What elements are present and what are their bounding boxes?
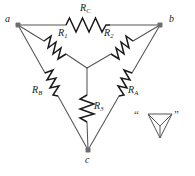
resistor-label-RB-sub: B: [38, 89, 42, 96]
node-dot-a: [16, 23, 21, 28]
symbol-open-quote: “: [134, 109, 139, 120]
resistor-label-R2: R2: [104, 28, 113, 38]
wire-RB-to-c: [58, 96, 88, 150]
figure-root: a b c RC RB RA R1 R2 R3 “ ”: [0, 0, 195, 176]
resistor-R3-zigzag: [80, 95, 94, 122]
delta-wye-symbol-glyph: [148, 114, 172, 138]
resistor-R1-zigzag: [44, 36, 66, 59]
resistor-label-RC: RC: [80, 3, 90, 13]
node-label-b: b: [169, 14, 174, 24]
resistor-label-R2-sub: 2: [110, 32, 113, 39]
resistor-label-RA: RA: [128, 85, 138, 95]
resistor-RB-zigzag: [45, 70, 59, 96]
wire-b-to-R2: [133, 25, 160, 41]
wire-a-to-RB: [18, 25, 45, 73]
wire-b-to-RA: [132, 25, 160, 73]
symbol-y-left: [148, 114, 160, 126]
node-dot-b: [158, 23, 163, 28]
resistor-label-R3-sub: 3: [100, 105, 103, 112]
circuit-diagram: [0, 0, 195, 176]
symbol-y-right: [160, 114, 172, 126]
resistor-label-R1-sub: 1: [64, 32, 67, 39]
resistor-label-R1: R1: [58, 28, 67, 38]
resistor-R2-zigzag: [111, 36, 133, 59]
resistor-label-RA-sub: A: [134, 89, 138, 96]
resistor-label-RB: RB: [32, 85, 42, 95]
resistor-label-RC-sub: C: [86, 7, 90, 14]
node-label-a: a: [5, 14, 10, 24]
symbol-close-quote: ”: [174, 109, 179, 120]
wire-R1-to-center: [66, 54, 87, 68]
node-label-c: c: [85, 155, 89, 165]
resistor-label-R3: R3: [94, 101, 103, 111]
wire-R3-to-c: [87, 122, 88, 150]
wire-R2-to-center: [87, 54, 111, 68]
node-dot-c: [86, 148, 91, 153]
